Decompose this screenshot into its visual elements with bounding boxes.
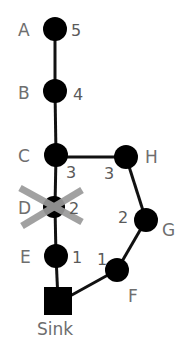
label-sink: Sink xyxy=(37,319,73,339)
label-g: G xyxy=(162,220,175,240)
label-b: B xyxy=(18,83,30,103)
node-c xyxy=(44,143,68,167)
node-sink xyxy=(44,287,72,315)
label-h: H xyxy=(145,147,158,167)
value-f: 1 xyxy=(97,250,107,269)
network-diagram: A B C H D G E F Sink 5 4 3 3 2 2 1 1 xyxy=(0,0,186,356)
value-e: 1 xyxy=(72,248,82,267)
value-h: 3 xyxy=(104,164,114,183)
node-f xyxy=(105,258,129,282)
value-g: 2 xyxy=(118,208,128,227)
node-e xyxy=(44,244,68,268)
value-d: 2 xyxy=(69,199,79,218)
label-d: D xyxy=(18,198,31,218)
node-b xyxy=(43,79,67,103)
node-g xyxy=(134,208,158,232)
label-e: E xyxy=(20,247,31,267)
node-a xyxy=(43,17,67,41)
label-c: C xyxy=(18,146,30,166)
label-a: A xyxy=(18,20,30,40)
value-c: 3 xyxy=(66,163,76,182)
node-h xyxy=(114,145,138,169)
value-a: 5 xyxy=(71,21,81,40)
label-f: F xyxy=(128,286,138,306)
value-b: 4 xyxy=(73,85,83,104)
